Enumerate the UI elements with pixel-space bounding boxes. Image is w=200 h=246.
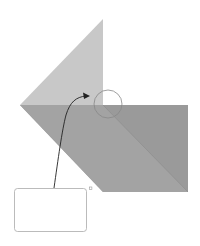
callout-text bbox=[16, 190, 84, 229]
top-flap-triangle bbox=[20, 19, 103, 105]
marker-dot bbox=[90, 187, 92, 189]
